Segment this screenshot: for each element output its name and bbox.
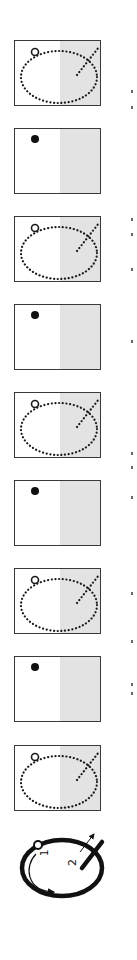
dotted-path-icon <box>15 393 101 458</box>
panel-trajectory-1 <box>14 40 101 106</box>
caption-fragment <box>131 90 133 93</box>
filled-dot-icon <box>15 129 101 194</box>
summary-schematic: 1 2 <box>14 826 114 906</box>
caption-fragment <box>131 340 133 343</box>
panel-trajectory-9 <box>14 745 101 811</box>
caption-fragment <box>131 233 133 236</box>
filled-dot-icon <box>15 305 101 370</box>
dotted-path-icon <box>15 746 101 811</box>
panel-dot-4 <box>14 304 101 370</box>
caption-fragment <box>131 592 133 595</box>
panel-trajectory-7 <box>14 568 101 634</box>
panel-dot-6 <box>14 480 101 546</box>
dotted-path-icon <box>15 41 101 106</box>
panel-dot-2 <box>14 128 101 194</box>
caption-fragment <box>131 268 133 271</box>
panel-dot-8 <box>14 656 101 722</box>
caption-fragment <box>131 496 133 499</box>
caption-fragment <box>131 466 133 469</box>
label-1: 1 <box>39 850 50 856</box>
panel-trajectory-5 <box>14 392 101 458</box>
dotted-path-icon <box>15 217 101 282</box>
filled-dot-icon <box>15 657 101 722</box>
filled-dot-icon <box>15 481 101 546</box>
caption-fragment <box>131 218 133 221</box>
caption-fragment <box>131 106 133 109</box>
caption-fragment <box>131 692 133 695</box>
caption-fragment <box>131 640 133 643</box>
caption-fragment <box>131 683 133 686</box>
caption-fragment <box>131 452 133 455</box>
label-2: 2 <box>66 859 79 866</box>
panel-trajectory-3 <box>14 216 101 282</box>
trajectory-schematic-icon: 1 2 <box>14 826 114 906</box>
dotted-path-icon <box>15 569 101 634</box>
